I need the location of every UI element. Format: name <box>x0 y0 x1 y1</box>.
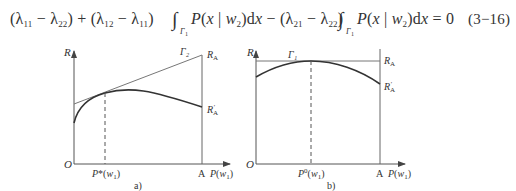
caption-b: b) <box>327 180 335 191</box>
figure-b: R O Γ₁ RA RA′ P0(w1) A P(w1) b) <box>246 46 411 191</box>
risk-curve-a <box>74 90 202 123</box>
gamma1-label: Γ₁ <box>287 49 297 60</box>
ra-prime-label-a: RA′ <box>206 103 218 117</box>
y-axis-label-b: R <box>246 46 254 58</box>
tangent-line-gamma2 <box>74 55 202 104</box>
a-label-a: A <box>198 168 206 179</box>
origin-label-a: O <box>64 158 72 170</box>
caption-a: a) <box>134 180 142 191</box>
figure-a: R O Γ₂ RA RA′ P*(w1) A P(w1) a) <box>63 46 233 191</box>
ra-prime-label-b: RA′ <box>383 80 395 94</box>
figures: R O Γ₂ RA RA′ P*(w1) A P(w1) a) R O Γ₁ R… <box>0 0 516 191</box>
p-zero-label: P0(w1) <box>297 167 324 181</box>
y-axis-label-a: R <box>63 46 71 58</box>
x-axis-label-a: P(w1) <box>209 168 233 181</box>
risk-curve-b <box>256 61 380 84</box>
ra-label-a: RA <box>206 49 218 62</box>
x-axis-label-b: P(w1) <box>387 168 411 181</box>
ra-label-b: RA <box>383 55 395 68</box>
a-label-b: A <box>376 168 384 179</box>
gamma2-label: Γ₂ <box>179 46 190 57</box>
origin-label-b: O <box>246 158 254 170</box>
p-star-label: P*(w1) <box>91 168 120 181</box>
